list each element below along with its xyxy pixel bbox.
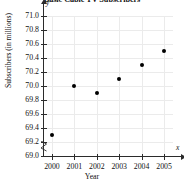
gridline-horizontal [43, 100, 173, 101]
y-axis-tick-label: 70.0 [0, 81, 39, 90]
y-axis-tick-label: 69.4 [0, 123, 39, 132]
gridline-horizontal [43, 114, 173, 115]
gridline-horizontal [43, 142, 173, 143]
y-axis-tick-label: 69.0 [0, 151, 39, 160]
x-axis-tick [74, 154, 75, 160]
y-axis-tick [41, 16, 47, 17]
x-axis-title: Year [0, 172, 184, 181]
x-axis-tick [119, 154, 120, 160]
x-axis-end-label: x [176, 143, 179, 152]
data-point [162, 49, 166, 53]
y-axis-tick-label: 69.2 [0, 137, 39, 146]
y-axis-tick-label: 69.8 [0, 95, 39, 104]
gridline-horizontal [43, 58, 173, 59]
y-axis-end-label: y [46, 0, 49, 7]
y-axis-tick [41, 156, 47, 157]
y-axis-tick [41, 142, 47, 143]
chart-title: Basic Cable TV Subscribers [0, 0, 184, 4]
y-axis-tick [41, 44, 47, 45]
data-point [95, 91, 99, 95]
gridline-vertical [97, 16, 98, 156]
y-axis-tick [41, 86, 47, 87]
x-axis-tick [164, 154, 165, 160]
data-point [50, 133, 54, 137]
plot-area: y x 71.070.870.670.470.270.069.869.669.4… [43, 16, 173, 156]
y-axis-tick-label: 71.0 [0, 11, 39, 20]
y-axis-tick [41, 58, 47, 59]
x-axis-line [43, 156, 182, 157]
x-axis-tick [142, 154, 143, 160]
y-axis-tick [41, 128, 47, 129]
gridline-horizontal [43, 16, 173, 17]
x-axis-tick [97, 154, 98, 160]
y-axis-tick [41, 114, 47, 115]
y-axis-tick-label: 69.6 [0, 109, 39, 118]
gridline-horizontal [43, 30, 173, 31]
y-axis-line [43, 3, 44, 156]
y-axis-tick [41, 30, 47, 31]
y-axis-tick-label: 70.8 [0, 25, 39, 34]
data-point [117, 77, 121, 81]
gridline-vertical [119, 16, 120, 156]
x-axis-tick [52, 154, 53, 160]
chart-figure: Basic Cable TV Subscribers Subscribers (… [0, 0, 184, 189]
data-point [140, 63, 144, 67]
y-axis-tick [41, 72, 47, 73]
y-axis-tick-label: 70.2 [0, 67, 39, 76]
x-axis-tick-label: 2005 [147, 162, 181, 171]
gridline-horizontal [43, 86, 173, 87]
data-point [72, 84, 76, 88]
gridline-horizontal [43, 128, 173, 129]
y-axis-tick-label: 70.4 [0, 53, 39, 62]
y-axis-tick-label: 70.6 [0, 39, 39, 48]
gridline-horizontal [43, 44, 173, 45]
x-axis-arrow-icon [181, 154, 184, 160]
gridline-vertical [142, 16, 143, 156]
gridline-horizontal [43, 72, 173, 73]
y-axis-tick [41, 100, 47, 101]
gridline-vertical [164, 16, 165, 156]
